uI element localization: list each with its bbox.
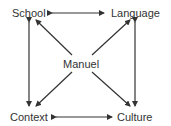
arrow-manuel-language <box>92 20 130 55</box>
node-school: School <box>12 7 46 19</box>
node-culture: Culture <box>117 111 152 123</box>
node-context: Context <box>10 111 48 123</box>
node-manuel: Manuel <box>63 58 99 70</box>
node-language: Language <box>111 7 160 19</box>
arrow-manuel-school <box>36 20 72 55</box>
arrow-manuel-culture <box>92 72 130 106</box>
arrow-manuel-context <box>36 72 72 106</box>
